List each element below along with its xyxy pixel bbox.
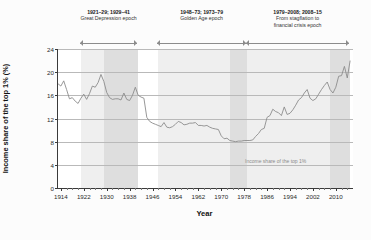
x-minor-tick-mark: [330, 188, 331, 190]
x-tick-mark: [198, 188, 199, 191]
x-minor-tick-mark: [72, 188, 73, 190]
epoch-span-arrow: [80, 39, 137, 48]
y-tick-label: 16: [47, 92, 54, 99]
epoch-span-arrow: [246, 39, 349, 48]
x-tick-mark: [267, 188, 268, 191]
x-minor-tick-mark: [324, 188, 325, 190]
arrow-right-icon: [134, 40, 137, 46]
x-minor-tick-mark: [135, 188, 136, 190]
x-minor-tick-mark: [284, 188, 285, 190]
x-minor-tick-mark: [101, 188, 102, 190]
x-tick-label: 1994: [283, 193, 297, 200]
x-tick-label: 1938: [123, 193, 137, 200]
x-tick-label: 2010: [329, 193, 343, 200]
x-minor-tick-mark: [279, 188, 280, 190]
x-minor-tick-mark: [256, 188, 257, 190]
epoch-span-arrow: [157, 39, 246, 48]
y-tick-mark: [55, 188, 58, 189]
epoch-arrow-line: [157, 43, 246, 44]
x-minor-tick-mark: [307, 188, 308, 190]
y-axis-title: Income share of the top 1% (%): [0, 49, 13, 188]
x-minor-tick-mark: [118, 188, 119, 190]
x-tick-mark: [130, 188, 131, 191]
x-minor-tick-mark: [273, 188, 274, 190]
x-tick-label: 1914: [54, 193, 68, 200]
x-minor-tick-mark: [204, 188, 205, 190]
x-minor-tick-mark: [164, 188, 165, 190]
x-minor-tick-mark: [124, 188, 125, 190]
x-minor-tick-mark: [90, 188, 91, 190]
y-tick-label: 0: [51, 185, 54, 192]
x-minor-tick-mark: [296, 188, 297, 190]
arrow-left-icon: [80, 40, 83, 46]
series-income-share-top-1pct: [58, 49, 353, 188]
x-minor-tick-mark: [210, 188, 211, 190]
x-minor-tick-mark: [250, 188, 251, 190]
epoch-arrow-line: [246, 43, 349, 44]
x-tick-label: 1930: [100, 193, 114, 200]
x-tick-mark: [61, 188, 62, 191]
x-tick-mark: [290, 188, 291, 191]
epoch-name-line2: financial crisis epoch: [216, 22, 371, 28]
y-tick-label: 8: [51, 138, 54, 145]
x-minor-tick-mark: [141, 188, 142, 190]
x-minor-tick-mark: [227, 188, 228, 190]
y-tick-label: 24: [47, 46, 54, 53]
epoch-annotations: 1921–29; 1929–41Great Depression epoch19…: [0, 0, 371, 48]
arrow-right-icon: [346, 40, 349, 46]
x-tick-mark: [153, 188, 154, 191]
x-tick-label: 1922: [77, 193, 91, 200]
x-tick-label: 1962: [191, 193, 205, 200]
x-minor-tick-mark: [147, 188, 148, 190]
epoch-arrow-line: [80, 43, 137, 44]
x-tick-label: 1978: [237, 193, 251, 200]
x-tick-label: 1986: [260, 193, 274, 200]
x-tick-mark: [313, 188, 314, 191]
y-tick-label: 20: [47, 69, 54, 76]
arrow-left-icon: [157, 40, 160, 46]
x-minor-tick-mark: [238, 188, 239, 190]
x-tick-label: 1970: [214, 193, 228, 200]
x-minor-tick-mark: [187, 188, 188, 190]
series-inline-label: Income share of the top 1%: [245, 158, 306, 164]
epoch-annotation: 1979–2008; 2008–15From stagflation tofin…: [216, 9, 371, 28]
x-minor-tick-mark: [301, 188, 302, 190]
x-minor-tick-mark: [112, 188, 113, 190]
x-tick-mark: [244, 188, 245, 191]
x-tick-label: 1954: [169, 193, 183, 200]
arrow-left-icon: [246, 40, 249, 46]
x-minor-tick-mark: [342, 188, 343, 190]
x-minor-tick-mark: [158, 188, 159, 190]
x-minor-tick-mark: [193, 188, 194, 190]
x-minor-tick-mark: [347, 188, 348, 190]
x-axis-title: Year: [57, 209, 352, 218]
x-minor-tick-mark: [67, 188, 68, 190]
x-tick-mark: [175, 188, 176, 191]
x-minor-tick-mark: [78, 188, 79, 190]
x-minor-tick-mark: [216, 188, 217, 190]
x-tick-mark: [84, 188, 85, 191]
x-tick-mark: [221, 188, 222, 191]
chart-figure: 1921–29; 1929–41Great Depression epoch19…: [0, 0, 371, 240]
x-tick-mark: [107, 188, 108, 191]
plot-area: 0481216202419141922193019381946195419621…: [57, 49, 353, 189]
y-tick-label: 12: [47, 115, 54, 122]
x-minor-tick-mark: [181, 188, 182, 190]
x-minor-tick-mark: [95, 188, 96, 190]
x-tick-mark: [336, 188, 337, 191]
x-tick-label: 1946: [146, 193, 160, 200]
x-minor-tick-mark: [170, 188, 171, 190]
x-minor-tick-mark: [261, 188, 262, 190]
x-tick-label: 2002: [306, 193, 320, 200]
y-tick-label: 4: [51, 161, 54, 168]
series-line: [58, 61, 350, 142]
x-minor-tick-mark: [319, 188, 320, 190]
x-minor-tick-mark: [233, 188, 234, 190]
